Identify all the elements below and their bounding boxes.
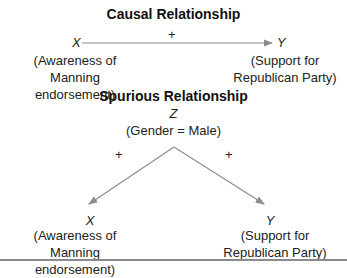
causal-y-label: (Support for Republican Party): [230, 52, 340, 86]
spurious-z-var: Z: [0, 106, 347, 121]
spurious-x-var: X: [45, 213, 135, 228]
z-to-x-arrow: [89, 147, 174, 204]
z-to-y-arrow: [174, 147, 264, 204]
spurious-z-label: (Gender = Male): [0, 122, 347, 139]
bottom-rule: [0, 259, 347, 261]
spurious-right-sign: +: [225, 147, 233, 162]
causal-x-var: X: [72, 35, 81, 50]
causal-sign: +: [168, 27, 176, 42]
spurious-left-sign: +: [115, 147, 123, 162]
causal-title: Causal Relationship: [0, 6, 347, 22]
spurious-y-label: (Support for Republican Party): [215, 227, 335, 261]
spurious-y-var: Y: [225, 213, 315, 228]
spurious-x-label: (Awareness of Manning endorsement): [10, 227, 140, 278]
causal-y-var: Y: [277, 35, 286, 50]
spurious-title: Spurious Relationship: [0, 88, 347, 104]
